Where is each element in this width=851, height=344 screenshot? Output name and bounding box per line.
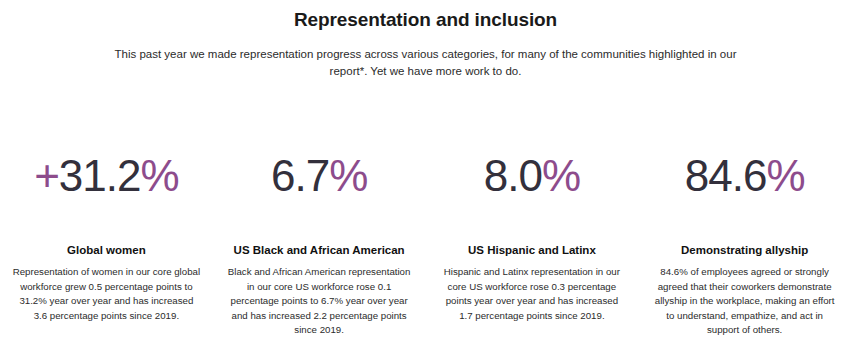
stat-value-us-hispanic-latinx: 8.0% bbox=[426, 150, 639, 202]
page-subtitle: This past year we made representation pr… bbox=[106, 46, 746, 80]
stat-value-text: 8.0% bbox=[426, 150, 639, 202]
stat-label: Demonstrating allyship bbox=[646, 242, 843, 258]
stat-label: Global women bbox=[8, 242, 205, 258]
stat-description: Hispanic and Latinx representation in ou… bbox=[434, 265, 631, 323]
stat-value-prefix: + bbox=[34, 151, 59, 200]
stat-value-global-women: +31.2% bbox=[0, 150, 213, 202]
stat-value-number: 84.6 bbox=[685, 151, 767, 200]
stat-value-number: 8.0 bbox=[484, 151, 542, 200]
stat-label: US Black and African American bbox=[221, 242, 418, 258]
stat-block-global-women: Global women Representation of women in … bbox=[0, 242, 213, 338]
stat-value-us-black-african-american: 6.7% bbox=[213, 150, 426, 202]
stat-value-text: +31.2% bbox=[0, 150, 213, 202]
stat-value-suffix: % bbox=[140, 151, 178, 200]
stat-description: 84.6% of employees agreed or strongly ag… bbox=[646, 265, 843, 338]
stats-values-row: +31.2% 6.7% 8.0% 84.6% bbox=[0, 150, 851, 202]
stat-label: US Hispanic and Latinx bbox=[434, 242, 631, 258]
stat-value-suffix: % bbox=[542, 151, 580, 200]
stat-value-text: 6.7% bbox=[213, 150, 426, 202]
stats-labels-row: Global women Representation of women in … bbox=[0, 242, 851, 338]
page-header: Representation and inclusion This past y… bbox=[0, 0, 851, 80]
representation-inclusion-page: Representation and inclusion This past y… bbox=[0, 0, 851, 344]
stat-value-number: 6.7 bbox=[271, 151, 329, 200]
stat-value-suffix: % bbox=[766, 151, 804, 200]
stat-value-suffix: % bbox=[329, 151, 367, 200]
stat-description: Representation of women in our core glob… bbox=[8, 265, 205, 323]
stat-block-demonstrating-allyship: Demonstrating allyship 84.6% of employee… bbox=[638, 242, 851, 338]
stat-block-us-black-african-american: US Black and African American Black and … bbox=[213, 242, 426, 338]
stat-value-number: 31.2 bbox=[59, 151, 141, 200]
stat-block-us-hispanic-latinx: US Hispanic and Latinx Hispanic and Lati… bbox=[426, 242, 639, 338]
stat-value-demonstrating-allyship: 84.6% bbox=[638, 150, 851, 202]
stat-value-text: 84.6% bbox=[638, 150, 851, 202]
page-title: Representation and inclusion bbox=[0, 8, 851, 32]
stat-description: Black and African American representatio… bbox=[221, 265, 418, 338]
